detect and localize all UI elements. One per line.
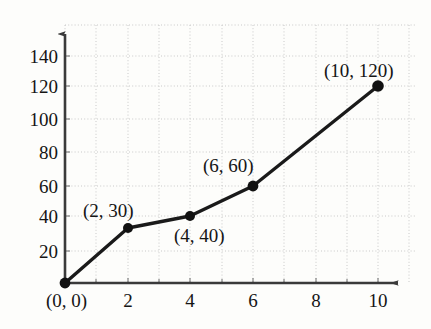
y-axis-tick-label-140: 140 [8, 47, 58, 66]
data-point-2-30 [123, 223, 133, 233]
x-axis-tick-label-8: 8 [311, 291, 321, 310]
data-point-6-60 [248, 181, 259, 192]
data-point-10-120 [372, 80, 384, 92]
y-axis-tick-label-20: 20 [8, 242, 58, 261]
point-label-4-40: (4, 40) [174, 226, 225, 245]
x-axis-tick-label-10: 10 [369, 291, 388, 310]
point-label-10-120: (10, 120) [324, 61, 394, 80]
y-axis-tick-label-60: 60 [8, 177, 58, 196]
y-axis-tick-label-120: 120 [8, 77, 58, 96]
point-label-6-60: (6, 60) [203, 156, 254, 175]
x-axis-tick-label-4: 4 [185, 291, 195, 310]
chart-figure: 140 120 100 80 60 40 20 2 4 6 8 10 (0, 0… [0, 0, 431, 329]
point-label-2-30: (2, 30) [83, 201, 134, 220]
data-point-0-0 [60, 278, 71, 289]
y-axis-tick-label-80: 80 [8, 143, 58, 162]
data-point-4-40 [185, 211, 195, 221]
point-label-origin: (0, 0) [46, 291, 87, 310]
y-axis-tick-label-40: 40 [8, 207, 58, 226]
y-axis-tick-label-100: 100 [8, 110, 58, 129]
x-axis-tick-label-2: 2 [123, 291, 133, 310]
x-axis-tick-label-6: 6 [248, 291, 258, 310]
